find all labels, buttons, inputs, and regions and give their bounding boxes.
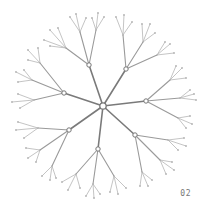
leaf-node — [23, 137, 25, 139]
leaf-node — [17, 81, 19, 83]
twig-edge — [114, 176, 118, 194]
branch-edge — [89, 30, 96, 65]
leaf-node — [43, 39, 45, 41]
figure-label: 02 — [180, 189, 191, 198]
leaf-node — [57, 27, 59, 29]
twig-edge — [123, 15, 124, 35]
leaf-node — [49, 45, 51, 47]
leaf-node — [11, 101, 13, 103]
twig-edge — [18, 94, 34, 100]
branch-edge — [146, 98, 180, 101]
twig-edge — [92, 18, 96, 30]
twig-edge — [24, 70, 32, 80]
twig-edge — [28, 150, 40, 158]
leaf-node — [109, 191, 111, 193]
leaf-node — [17, 93, 19, 95]
leaf-node — [27, 157, 29, 159]
leaf-node — [41, 175, 43, 177]
leaf-node — [103, 16, 105, 18]
leaf-node — [19, 107, 21, 109]
branch-edge — [34, 93, 64, 100]
twig-edge — [178, 116, 190, 118]
trunk-edge — [98, 106, 103, 149]
leaf-node — [151, 179, 153, 181]
leaf-node — [97, 12, 99, 14]
leaf-node — [141, 23, 143, 25]
twig-edge — [110, 176, 114, 192]
leaf-node — [169, 43, 171, 45]
leaf-node — [49, 29, 51, 31]
twig-edge — [123, 22, 132, 35]
leaf-node — [185, 77, 187, 79]
twig-edge — [26, 148, 40, 150]
branch-edge — [123, 35, 126, 69]
leaf-node — [191, 123, 193, 125]
leaf-node — [123, 14, 125, 16]
leaf-node — [79, 187, 81, 189]
twig-edge — [142, 24, 143, 42]
leaf-node — [147, 185, 149, 187]
twig-edge — [93, 184, 94, 198]
leaf-node — [149, 23, 151, 25]
branch-node — [96, 147, 100, 151]
branch-node — [124, 67, 128, 71]
leaf-node — [195, 99, 197, 101]
trunk-edge — [103, 106, 135, 135]
leaf-node — [181, 67, 183, 69]
leaf-node — [49, 179, 51, 181]
leaf-node — [131, 21, 133, 23]
twig-edge — [86, 184, 93, 196]
trunk-edge — [89, 65, 103, 106]
twig-edge — [58, 28, 66, 48]
branch-node — [133, 133, 137, 137]
leaf-node — [23, 69, 25, 71]
leaf-node — [115, 16, 117, 18]
leaf-node — [173, 52, 175, 54]
leaf-node — [193, 93, 195, 95]
leaf-node — [175, 65, 177, 67]
twig-edge — [18, 80, 32, 82]
trunk-edge — [103, 101, 146, 106]
leaf-node — [69, 16, 71, 18]
trunk-edge — [103, 69, 126, 106]
twig-edge — [16, 128, 38, 130]
leaf-node — [37, 47, 39, 49]
leaf-node — [85, 17, 87, 19]
leaf-node — [183, 137, 185, 139]
leaf-node — [75, 13, 77, 15]
twig-edge — [80, 18, 86, 32]
radial-tree-diagram — [0, 0, 200, 205]
branch-node — [87, 63, 91, 67]
twig-edge — [180, 98, 196, 100]
trunk-edge — [64, 93, 103, 106]
branch-node — [67, 128, 71, 132]
twig-edge — [170, 68, 182, 80]
trunk-edge — [69, 106, 103, 130]
branch-edge — [98, 149, 114, 176]
leaf-node — [15, 71, 17, 73]
branch-edge — [146, 80, 170, 101]
leaf-node — [171, 161, 173, 163]
twig-edge — [24, 128, 38, 138]
leaf-node — [61, 181, 63, 183]
leaf-node — [15, 129, 17, 131]
twig-edge — [140, 172, 142, 186]
twig-edge — [76, 174, 80, 188]
branch-edge — [38, 128, 69, 130]
leaf-node — [35, 161, 37, 163]
root-node — [100, 103, 106, 109]
twig-edge — [170, 78, 186, 80]
leaf-node — [99, 193, 101, 195]
twig-edge — [114, 176, 126, 188]
leaf-node — [55, 177, 57, 179]
twig-edge — [170, 66, 176, 80]
twig-edge — [168, 138, 184, 140]
leaf-node — [164, 41, 166, 43]
leaf-node — [185, 145, 187, 147]
leaf-node — [154, 32, 156, 34]
leaf-node — [85, 195, 87, 197]
twig-edge — [16, 72, 32, 80]
leaf-node — [27, 49, 29, 51]
twig-edge — [18, 122, 38, 128]
leaf-node — [125, 187, 127, 189]
